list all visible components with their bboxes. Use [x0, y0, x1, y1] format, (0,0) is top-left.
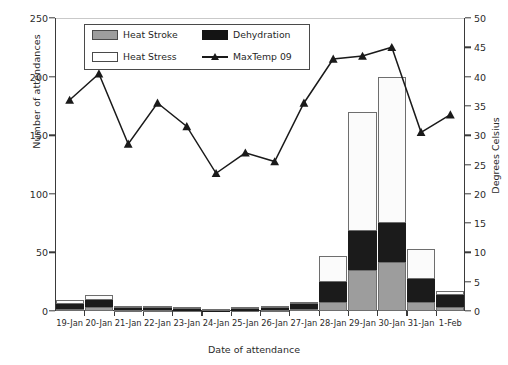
bar-group	[56, 18, 84, 311]
white-swatch-icon	[92, 52, 118, 62]
x-tick-label: 1-Feb	[439, 318, 462, 328]
secondary-y-tick-mark	[465, 164, 471, 165]
legend-item-dehydration: Dehydration	[202, 29, 291, 40]
gray-swatch-icon	[92, 30, 118, 40]
y-tick-label: 200	[14, 71, 48, 82]
secondary-y-tick-mark	[465, 76, 471, 77]
bar-segment	[85, 300, 113, 307]
y-tick-mark	[49, 134, 55, 135]
x-tick-label: 30-Jan	[378, 318, 405, 328]
bar-segment	[56, 304, 84, 309]
secondary-y-tick-mark	[465, 134, 471, 135]
secondary-y-tick-mark	[465, 252, 471, 253]
secondary-y-tick-label: 25	[474, 159, 504, 170]
bar-segment	[290, 302, 318, 304]
bar-segment	[143, 306, 171, 308]
bar-segment	[436, 291, 464, 295]
x-tick-label: 20-Jan	[86, 318, 113, 328]
secondary-y-tick-label: 45	[474, 42, 504, 53]
x-tick-label: 29-Jan	[349, 318, 376, 328]
y-tick-mark	[49, 193, 55, 194]
secondary-y-tick-label: 15	[474, 218, 504, 229]
bar-group	[407, 18, 435, 311]
secondary-y-tick-label: 20	[474, 188, 504, 199]
legend-item-heat-stress: Heat Stress	[92, 51, 177, 62]
legend-item-heat-stroke: Heat Stroke	[92, 29, 178, 40]
x-tick-label: 23-Jan	[173, 318, 200, 328]
bar-segment	[436, 307, 464, 311]
bar-segment	[319, 256, 347, 282]
secondary-y-tick-mark	[465, 17, 471, 18]
x-tick-mark	[406, 311, 407, 316]
bar-group	[319, 18, 347, 311]
y-tick-label: 150	[14, 130, 48, 141]
secondary-y-tick-mark	[465, 193, 471, 194]
chart-container: Number of attendances Degrees Celsius Da…	[0, 0, 508, 365]
x-axis-title: Date of attendance	[0, 344, 508, 355]
x-tick-mark	[289, 311, 290, 316]
bar-segment	[319, 302, 347, 311]
x-tick-mark	[319, 311, 320, 316]
line-marker-swatch-icon	[202, 52, 228, 62]
y-tick-label: 50	[14, 247, 48, 258]
x-tick-mark	[377, 311, 378, 316]
bar-segment	[56, 300, 84, 304]
y-tick-label: 100	[14, 188, 48, 199]
bar-segment	[143, 310, 171, 312]
secondary-y-tick-label: 40	[474, 71, 504, 82]
x-tick-label: 22-Jan	[144, 318, 171, 328]
y-tick-mark	[49, 252, 55, 253]
legend-label-heat-stress: Heat Stress	[123, 51, 177, 62]
legend-label-maxtemp: MaxTemp 09	[233, 51, 292, 62]
y-tick-label: 0	[14, 306, 48, 317]
secondary-y-tick-label: 35	[474, 100, 504, 111]
x-tick-label: 31-Jan	[408, 318, 435, 328]
bar-segment	[114, 310, 142, 312]
x-tick-label: 26-Jan	[261, 318, 288, 328]
bar-segment	[173, 307, 201, 309]
bar-group	[348, 18, 376, 311]
bar-segment	[378, 262, 406, 311]
x-tick-mark	[84, 311, 85, 316]
x-tick-mark	[348, 311, 349, 316]
bar-segment	[348, 112, 376, 232]
x-tick-label: 24-Jan	[203, 318, 230, 328]
bar-segment	[436, 295, 464, 308]
secondary-y-tick-label: 0	[474, 306, 504, 317]
y-tick-label: 250	[14, 13, 48, 24]
x-tick-label: 19-Jan	[56, 318, 83, 328]
secondary-y-tick-mark	[465, 310, 471, 311]
bar-segment	[348, 270, 376, 311]
bar-segment	[407, 249, 435, 279]
secondary-y-tick-mark	[465, 105, 471, 106]
legend-label-dehydration: Dehydration	[233, 29, 291, 40]
y-axis-title: Number of attendances	[31, 12, 42, 172]
secondary-y-tick-mark	[465, 281, 471, 282]
bar-segment	[261, 310, 289, 312]
bar-group	[436, 18, 464, 311]
legend-item-maxtemp: MaxTemp 09	[202, 51, 292, 62]
bar-segment	[56, 309, 84, 311]
secondary-y-tick-label: 50	[474, 13, 504, 24]
x-tick-label: 21-Jan	[115, 318, 142, 328]
x-tick-label: 25-Jan	[232, 318, 259, 328]
x-tick-label: 28-Jan	[320, 318, 347, 328]
secondary-y-tick-label: 10	[474, 247, 504, 258]
bar-segment	[319, 282, 347, 302]
black-swatch-icon	[202, 30, 228, 40]
x-tick-label: 27-Jan	[291, 318, 318, 328]
bar-segment	[85, 295, 113, 301]
bar-segment	[202, 309, 230, 311]
bar-segment	[261, 306, 289, 308]
bar-segment	[85, 307, 113, 311]
bar-segment	[378, 223, 406, 262]
secondary-y-tick-label: 5	[474, 276, 504, 287]
bar-segment	[290, 303, 318, 309]
x-tick-mark	[436, 311, 437, 316]
bar-segment	[231, 307, 259, 309]
bar-segment	[378, 77, 406, 224]
bar-group	[378, 18, 406, 311]
bar-segment	[407, 302, 435, 311]
legend-label-heat-stroke: Heat Stroke	[123, 29, 178, 40]
bar-segment	[348, 231, 376, 270]
